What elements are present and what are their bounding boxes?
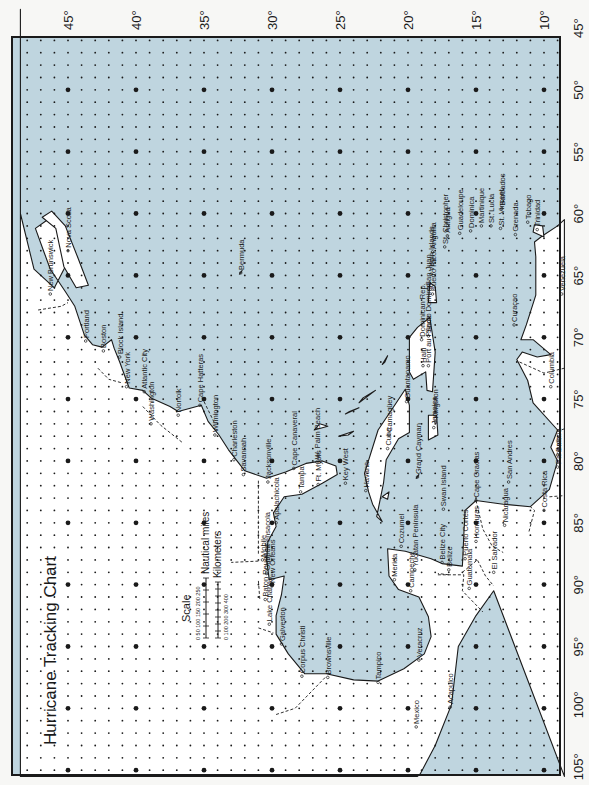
minor-grid-dot — [54, 312, 56, 314]
minor-grid-dot — [516, 522, 518, 524]
minor-grid-dot — [326, 275, 328, 277]
minor-grid-dot — [244, 745, 246, 747]
minor-grid-dot — [162, 386, 164, 388]
minor-grid-dot — [230, 621, 232, 623]
place-label: Tobago — [524, 195, 533, 220]
minor-grid-dot — [81, 386, 83, 388]
minor-grid-dot — [26, 114, 28, 116]
minor-grid-dot — [217, 77, 219, 79]
minor-grid-dot — [489, 571, 491, 573]
minor-grid-dot — [489, 101, 491, 103]
major-grid-dot — [406, 211, 411, 216]
minor-grid-dot — [230, 670, 232, 672]
minor-grid-dot — [502, 101, 504, 103]
minor-grid-dot — [298, 299, 300, 301]
minor-grid-dot — [502, 547, 504, 549]
minor-grid-dot — [394, 176, 396, 178]
minor-grid-dot — [230, 361, 232, 363]
minor-grid-dot — [448, 361, 450, 363]
minor-grid-dot — [394, 745, 396, 747]
minor-grid-dot — [285, 225, 287, 227]
minor-grid-dot — [176, 225, 178, 227]
minor-grid-dot — [81, 176, 83, 178]
minor-grid-dot — [81, 287, 83, 289]
minor-grid-dot — [149, 77, 151, 79]
place-label: Norfolk — [174, 388, 183, 412]
minor-grid-dot — [516, 497, 518, 499]
minor-grid-dot — [489, 485, 491, 487]
minor-grid-dot — [271, 176, 273, 178]
minor-grid-dot — [108, 658, 110, 660]
minor-grid-dot — [312, 176, 314, 178]
minor-grid-dot — [122, 213, 124, 215]
major-grid-dot — [542, 87, 547, 92]
minor-grid-dot — [339, 374, 341, 376]
minor-grid-dot — [448, 324, 450, 326]
minor-grid-dot — [557, 312, 559, 314]
minor-grid-dot — [122, 769, 124, 771]
minor-grid-dot — [353, 423, 355, 425]
place-label: Guadeloupe — [456, 189, 465, 230]
minor-grid-dot — [244, 138, 246, 140]
minor-grid-dot — [26, 547, 28, 549]
minor-grid-dot — [176, 77, 178, 79]
minor-grid-dot — [258, 571, 260, 573]
minor-grid-dot — [353, 386, 355, 388]
minor-grid-dot — [475, 52, 477, 54]
minor-grid-dot — [312, 163, 314, 165]
minor-grid-dot — [26, 584, 28, 586]
minor-grid-dot — [149, 633, 151, 635]
minor-grid-dot — [203, 658, 205, 660]
minor-grid-dot — [462, 695, 464, 697]
minor-grid-dot — [94, 633, 96, 635]
minor-grid-dot — [475, 448, 477, 450]
minor-grid-dot — [244, 547, 246, 549]
minor-grid-dot — [298, 262, 300, 264]
minor-grid-dot — [122, 435, 124, 437]
minor-grid-dot — [122, 423, 124, 425]
minor-grid-dot — [543, 386, 545, 388]
minor-grid-dot — [149, 114, 151, 116]
minor-grid-dot — [516, 683, 518, 685]
minor-grid-dot — [26, 225, 28, 227]
minor-grid-dot — [230, 658, 232, 660]
minor-grid-dot — [380, 225, 382, 227]
major-grid-dot — [542, 397, 547, 402]
minor-grid-dot — [244, 596, 246, 598]
minor-grid-dot — [94, 571, 96, 573]
minor-grid-dot — [312, 262, 314, 264]
minor-grid-dot — [557, 374, 559, 376]
minor-grid-dot — [557, 138, 559, 140]
longitude-label: 70° — [571, 328, 586, 348]
minor-grid-dot — [434, 522, 436, 524]
minor-grid-dot — [434, 89, 436, 91]
minor-grid-dot — [326, 349, 328, 351]
minor-grid-dot — [557, 126, 559, 128]
minor-grid-dot — [122, 497, 124, 499]
minor-grid-dot — [67, 658, 69, 660]
minor-grid-dot — [230, 732, 232, 734]
minor-grid-dot — [94, 609, 96, 611]
minor-grid-dot — [26, 472, 28, 474]
minor-grid-dot — [54, 336, 56, 338]
minor-grid-dot — [94, 769, 96, 771]
minor-grid-dot — [258, 64, 260, 66]
minor-grid-dot — [502, 757, 504, 759]
minor-grid-dot — [285, 584, 287, 586]
minor-grid-dot — [298, 596, 300, 598]
minor-grid-dot — [326, 411, 328, 413]
minor-grid-dot — [81, 448, 83, 450]
minor-grid-dot — [26, 312, 28, 314]
minor-grid-dot — [81, 609, 83, 611]
minor-grid-dot — [353, 534, 355, 536]
minor-grid-dot — [353, 769, 355, 771]
minor-grid-dot — [516, 163, 518, 165]
minor-grid-dot — [502, 250, 504, 252]
minor-grid-dot — [489, 670, 491, 672]
minor-grid-dot — [475, 299, 477, 301]
place-label: Grenada — [511, 202, 520, 232]
place-label: San Andres — [505, 440, 514, 479]
longitude-label: 100° — [571, 691, 586, 718]
minor-grid-dot — [162, 225, 164, 227]
minor-grid-dot — [230, 522, 232, 524]
